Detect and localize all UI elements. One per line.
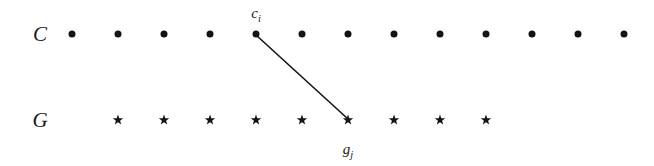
row-label-group: C G — [32, 22, 48, 132]
row-label-c: C — [33, 22, 48, 46]
point-label-gj: gj — [343, 141, 354, 160]
row-label-g: G — [32, 108, 47, 132]
g-point-marker — [435, 115, 445, 125]
c-point-marker — [207, 31, 214, 38]
c-point-marker — [161, 31, 168, 38]
g-point-marker — [297, 115, 307, 125]
c-point-marker — [437, 31, 444, 38]
g-point-marker — [389, 115, 399, 125]
c-point-marker — [115, 31, 122, 38]
point-label-gj-text: gj — [343, 141, 354, 160]
g-row-marker-group — [113, 115, 491, 125]
c-point-marker — [69, 31, 76, 38]
c-point-marker — [299, 31, 306, 38]
c-row-marker-group — [69, 31, 628, 38]
c-point-marker — [621, 31, 628, 38]
figure-canvas: C G ci gj — [0, 0, 654, 166]
g-point-marker — [251, 115, 261, 125]
point-label-ci-subscript: i — [258, 13, 261, 24]
edge-group — [256, 35, 348, 119]
g-point-marker — [481, 115, 491, 125]
point-label-ci-text: ci — [251, 5, 261, 24]
c-point-marker — [575, 31, 582, 38]
c-point-marker — [483, 31, 490, 38]
g-point-marker — [205, 115, 215, 125]
c-point-marker — [529, 31, 536, 38]
matching-diagram-figure: C G ci gj — [0, 0, 654, 166]
g-point-marker — [113, 115, 123, 125]
c-point-marker — [391, 31, 398, 38]
matching-edge-line — [256, 35, 348, 119]
g-point-marker — [159, 115, 169, 125]
point-label-ci: ci — [251, 5, 261, 24]
c-point-marker — [345, 31, 352, 38]
